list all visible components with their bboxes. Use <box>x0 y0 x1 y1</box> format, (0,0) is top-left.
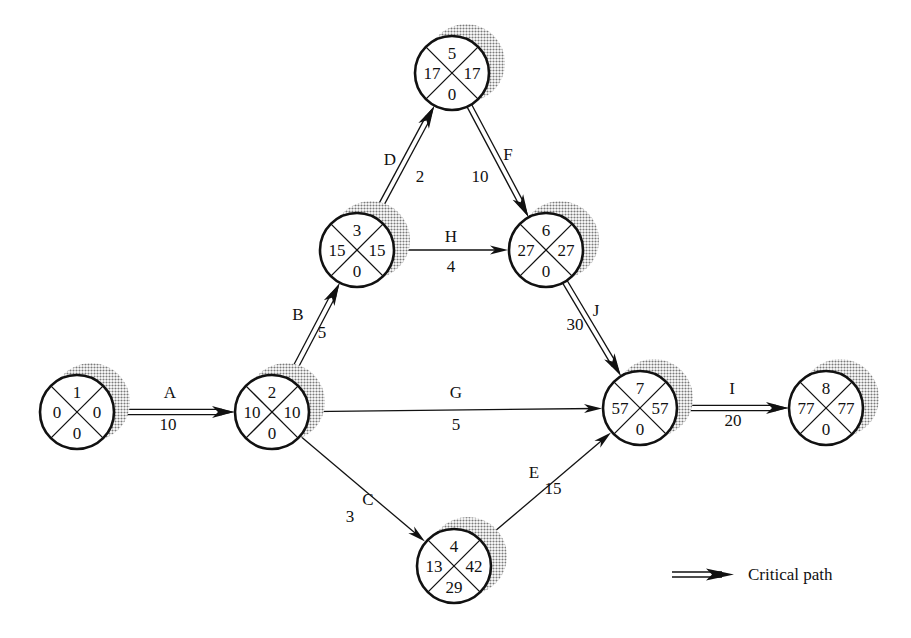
edge-duration-label: 2 <box>416 167 425 186</box>
edge-duration-label: 10 <box>160 415 177 434</box>
edges-layer <box>114 104 788 542</box>
node-latest-time: 42 <box>466 557 483 576</box>
node-earliest-time: 17 <box>424 64 442 83</box>
edge-activity-label: C <box>362 490 373 509</box>
node-earliest-time: 10 <box>244 403 261 422</box>
edge-duration-label: 15 <box>545 479 562 498</box>
edge-activity-label: B <box>292 305 303 324</box>
node-slack: 0 <box>822 420 831 439</box>
legend-critical-path-label: Critical path <box>748 565 833 584</box>
edge-activity-label: J <box>593 301 600 320</box>
node-latest-time: 10 <box>284 403 301 422</box>
cpm-network-diagram: 1000210100315150413422951717062727075757… <box>0 0 911 638</box>
edge-labels-layer: A10B5C3D2E15F10G5H4I20J30 <box>160 145 742 526</box>
event-node-8: 877770 <box>789 359 879 445</box>
node-slack: 0 <box>636 420 645 439</box>
event-node-5: 517170 <box>415 24 505 110</box>
nodes-layer: 1000210100315150413422951717062727075757… <box>40 24 879 603</box>
node-earliest-time: 77 <box>798 399 816 418</box>
node-latest-time: 27 <box>558 241 576 260</box>
node-slack: 0 <box>448 85 457 104</box>
node-slack: 0 <box>73 424 82 443</box>
edge-D <box>372 106 434 218</box>
edge-duration-label: 20 <box>725 411 742 430</box>
critical-path-arrow-icon <box>672 569 734 581</box>
node-event-number: 3 <box>353 221 362 240</box>
event-node-6: 627270 <box>509 201 599 287</box>
node-event-number: 4 <box>450 537 459 556</box>
edge-activity-label: D <box>384 150 396 169</box>
edge-activity-label: H <box>445 227 457 246</box>
edge-duration-label: 4 <box>447 257 456 276</box>
node-latest-time: 77 <box>838 399 856 418</box>
edge-duration-label: 5 <box>318 323 327 342</box>
node-slack: 0 <box>353 262 362 281</box>
node-earliest-time: 13 <box>426 557 443 576</box>
edge-F <box>467 104 528 216</box>
node-event-number: 1 <box>73 383 82 402</box>
node-event-number: 7 <box>636 379 645 398</box>
node-earliest-time: 27 <box>518 241 536 260</box>
edge-duration-label: 30 <box>567 315 584 334</box>
node-earliest-time: 57 <box>612 399 630 418</box>
node-event-number: 6 <box>542 221 551 240</box>
node-earliest-time: 15 <box>329 241 346 260</box>
legend: Critical path <box>672 565 833 584</box>
node-event-number: 2 <box>268 383 277 402</box>
edge-activity-label: F <box>503 145 512 164</box>
edge-duration-label: 5 <box>452 415 461 434</box>
node-slack: 29 <box>446 578 463 597</box>
edge-activity-label: G <box>450 383 462 402</box>
node-event-number: 5 <box>448 44 457 63</box>
node-event-number: 8 <box>822 379 831 398</box>
node-latest-time: 17 <box>464 64 482 83</box>
node-earliest-time: 0 <box>53 403 62 422</box>
node-latest-time: 0 <box>93 403 102 422</box>
node-latest-time: 15 <box>369 241 386 260</box>
edge-G <box>309 404 602 413</box>
edge-activity-label: I <box>729 379 735 398</box>
edge-activity-label: A <box>164 383 177 402</box>
edge-activity-label: E <box>529 463 539 482</box>
event-node-2: 210100 <box>235 363 325 449</box>
node-slack: 0 <box>542 262 551 281</box>
node-slack: 0 <box>268 424 277 443</box>
event-node-7: 757570 <box>603 359 693 445</box>
edge-duration-label: 10 <box>472 167 489 186</box>
edge-duration-label: 3 <box>346 507 355 526</box>
event-node-3: 315150 <box>320 201 410 287</box>
event-node-1: 1000 <box>40 363 130 449</box>
edge-H <box>394 246 508 255</box>
event-node-4: 4134229 <box>417 517 507 603</box>
node-latest-time: 57 <box>652 399 670 418</box>
edge-C <box>300 436 425 542</box>
